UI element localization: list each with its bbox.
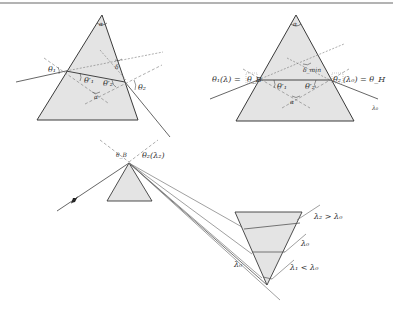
- panel-a-theta2: θ₂: [138, 83, 146, 92]
- panel-c-theta2-l2: θ₂(λ₂): [142, 151, 165, 160]
- figure: α θ₁ θ′₁ θ′₂ θ₂ δ α α θ₁(λ) = θ_B θ₂ (λ₀…: [0, 0, 393, 312]
- panel-c-l0-label: λ₀: [300, 239, 310, 248]
- panel-c-lb-label: λ₀: [233, 260, 243, 269]
- panel-a-delta: δ: [115, 63, 119, 70]
- panel-b-theta2p: θ′₂: [305, 82, 315, 91]
- panel-a-alpha-inner: α: [94, 93, 98, 100]
- panel-a-theta1: θ₁: [48, 65, 56, 74]
- panel-a-theta1p: θ′₁: [84, 76, 94, 85]
- panel-a-theta2p: θ′₂: [103, 79, 113, 88]
- panel-c-theta-b: θ_B: [116, 151, 128, 159]
- panel-b-prism: [210, 15, 378, 121]
- prism-diagram-svg: α θ₁ θ′₁ θ′₂ θ₂ δ α α θ₁(λ) = θ_B θ₂ (λ₀…: [0, 0, 393, 312]
- arrow-head-icon: [71, 196, 78, 203]
- panel-b-theta1p: θ′₁: [277, 82, 287, 91]
- panel-b-alpha-inner: α: [290, 98, 294, 105]
- panel-b-right-box-label: θ₂: [333, 75, 341, 84]
- panel-b-left-label: θ₁(λ) =: [212, 75, 241, 84]
- panel-b-apex-label: α: [293, 20, 297, 27]
- panel-b-right-label: (λ₀) = θ_H: [343, 75, 386, 84]
- panel-c-l1-lt-label: λ₁ < λ₀: [289, 263, 319, 272]
- panel-b-left-box-label: θ_B: [247, 75, 262, 84]
- panel-b-out-ray-label: λ₀: [371, 104, 379, 111]
- panel-b-delta-min: δ_min: [303, 66, 321, 74]
- panel-c-l2-gt-label: λ₂ > λ₀: [313, 212, 343, 221]
- panel-a-apex-label: α: [99, 20, 103, 27]
